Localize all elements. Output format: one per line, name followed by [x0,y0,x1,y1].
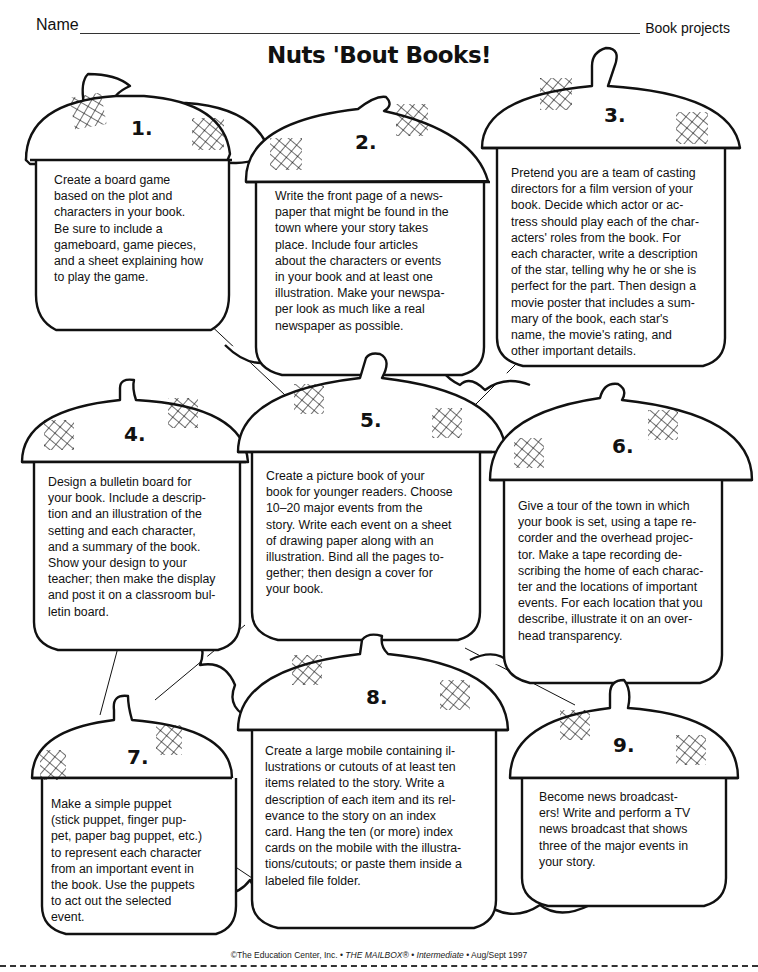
cut-line [0,965,758,967]
project-number: 5. [360,408,382,432]
level-label: Intermediate [417,950,464,960]
project-number: 9. [613,733,635,757]
project-number: 6. [612,434,634,458]
page-title: Nuts 'Bout Books! [0,42,758,68]
project-9-text: Become news broadcast- ers! Write and pe… [539,789,729,870]
project-number: 4. [124,422,146,446]
copyright-text: ©The Education Center, Inc. • [231,950,343,960]
magazine-name: THE MAILBOX® [345,950,408,960]
issue-date: • Aug/Sept 1997 [466,950,527,960]
project-3-text: Pretend you are a team of casting direct… [511,165,741,359]
project-6-text: Give a tour of the town in which your bo… [518,498,733,644]
project-number: 1. [131,116,153,140]
project-number: 7. [127,745,149,769]
project-number: 8. [366,685,388,709]
footer-separator: • [411,950,414,960]
copyright-footer: ©The Education Center, Inc. • THE MAILBO… [0,950,758,960]
project-5-text: Create a picture book of your book for y… [266,468,491,598]
project-8-text: Create a large mobile containing il- lus… [265,743,505,889]
project-1-text: Create a board game based on the plot an… [54,172,234,285]
project-4-text: Design a bulletin board for your book. I… [48,474,248,620]
project-number: 3. [604,103,626,127]
project-number: 2. [355,130,377,154]
project-2-text: Write the front page of a news- paper th… [275,188,490,334]
project-7-text: Make a simple puppet (stick puppet, fing… [51,796,241,926]
